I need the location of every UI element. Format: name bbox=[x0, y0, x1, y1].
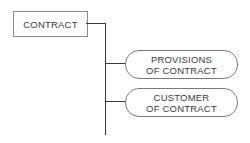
child-node-customer: CUSTOMER OF CONTRACT bbox=[125, 88, 238, 117]
connector-trunk-vertical bbox=[105, 23, 106, 135]
root-node-contract: CONTRACT bbox=[13, 11, 88, 37]
child-node-label-line2: OF CONTRACT bbox=[146, 65, 217, 76]
connector-branch-2 bbox=[105, 101, 126, 102]
child-node-label-line1: PROVISIONS bbox=[151, 54, 212, 65]
child-node-label-line2: OF CONTRACT bbox=[146, 103, 217, 114]
child-node-provisions: PROVISIONS OF CONTRACT bbox=[125, 50, 238, 79]
child-node-label-line1: CUSTOMER bbox=[154, 92, 210, 103]
root-node-label: CONTRACT bbox=[23, 19, 77, 30]
connector-branch-1 bbox=[105, 63, 126, 64]
connector-root-horizontal bbox=[86, 23, 106, 24]
